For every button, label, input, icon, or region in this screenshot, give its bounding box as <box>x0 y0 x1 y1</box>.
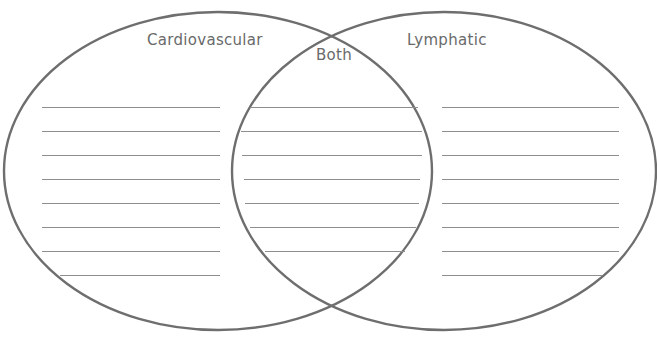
writing-line[interactable] <box>442 275 602 276</box>
writing-line[interactable] <box>42 179 220 180</box>
lymphatic-circle <box>232 12 656 330</box>
writing-line[interactable] <box>42 227 220 228</box>
writing-line[interactable] <box>245 203 419 204</box>
writing-line[interactable] <box>442 155 619 156</box>
cardiovascular-circle <box>4 12 432 330</box>
writing-line[interactable] <box>42 107 220 108</box>
writing-line[interactable] <box>42 251 220 252</box>
writing-line[interactable] <box>60 275 220 276</box>
writing-line[interactable] <box>442 251 619 252</box>
writing-line[interactable] <box>250 107 418 108</box>
cardiovascular-label: Cardiovascular <box>147 31 263 49</box>
writing-line[interactable] <box>241 131 422 132</box>
writing-line[interactable] <box>42 131 220 132</box>
lymphatic-label: Lymphatic <box>407 31 487 49</box>
writing-line[interactable] <box>42 203 220 204</box>
writing-line[interactable] <box>442 179 619 180</box>
writing-line[interactable] <box>442 107 619 108</box>
writing-line[interactable] <box>265 251 405 252</box>
writing-line[interactable] <box>242 155 422 156</box>
writing-line[interactable] <box>442 227 619 228</box>
writing-line[interactable] <box>250 227 416 228</box>
writing-line[interactable] <box>442 131 619 132</box>
writing-line[interactable] <box>42 155 220 156</box>
both-label: Both <box>316 46 352 64</box>
writing-line[interactable] <box>244 179 420 180</box>
writing-line[interactable] <box>442 203 619 204</box>
